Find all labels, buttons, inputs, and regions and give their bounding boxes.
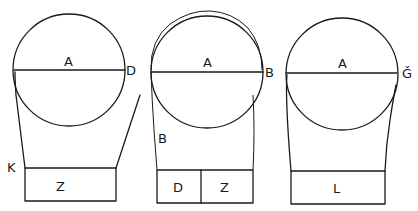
box-label-1: D xyxy=(173,180,183,195)
body-right-side xyxy=(116,95,140,168)
circle-label: A xyxy=(338,56,347,71)
side-label: B xyxy=(158,131,167,146)
box-label-2: Z xyxy=(220,180,229,195)
diameter-right-label: D xyxy=(126,63,136,78)
circle-label: A xyxy=(203,55,212,70)
body-left-side xyxy=(151,72,157,170)
diagram-stage: A D K Z A B B D Z xyxy=(0,0,418,211)
box xyxy=(25,168,116,201)
circle xyxy=(286,18,398,130)
body-right-side xyxy=(253,95,254,170)
box-group xyxy=(157,170,253,203)
box-label: Z xyxy=(56,179,65,194)
diameter-right-label: Ǧ xyxy=(402,66,412,81)
figure-right: A Ǧ L xyxy=(286,18,412,204)
side-label: K xyxy=(7,160,16,175)
figure-middle: A B B D Z xyxy=(151,11,274,203)
figure-left: A D K Z xyxy=(7,14,140,201)
body-right-side xyxy=(385,85,396,171)
circle-label: A xyxy=(64,54,73,69)
diameter-right-label: B xyxy=(265,65,274,80)
box-label: L xyxy=(333,181,341,196)
body-left-side xyxy=(15,72,25,168)
